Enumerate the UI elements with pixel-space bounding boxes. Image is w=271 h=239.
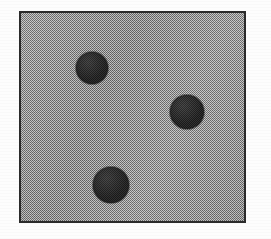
figure-canvas bbox=[0, 0, 271, 239]
top-left-dot bbox=[76, 52, 108, 84]
middle-right-dot bbox=[170, 95, 204, 129]
halftone-texture bbox=[21, 13, 244, 221]
gray-textured-plate bbox=[19, 11, 246, 223]
bottom-left-dot bbox=[93, 167, 129, 203]
